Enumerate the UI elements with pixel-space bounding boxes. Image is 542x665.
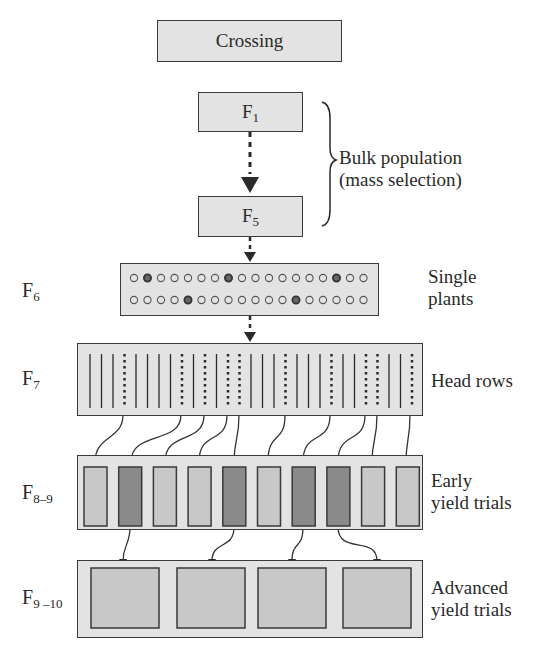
plant: [346, 274, 353, 281]
plant: [157, 296, 164, 303]
plant: [279, 296, 286, 303]
f1-to-f5-arrow: [241, 132, 259, 193]
early-yield-trials-label: Early yield trials: [431, 470, 512, 514]
selected-plant: [292, 296, 299, 303]
f6-generation-label: F6: [22, 279, 40, 305]
selected-plant: [144, 274, 151, 281]
early-trial-plot: [258, 467, 281, 526]
f5-to-f6-arrow: [244, 237, 256, 262]
early-trial-plot: [362, 467, 385, 526]
advanced-trial-plot: [343, 568, 411, 628]
selected-plant: [225, 274, 232, 281]
plant: [279, 274, 286, 281]
plant: [238, 296, 245, 303]
f9-10-generation-label: F9 –10: [22, 586, 62, 612]
f8-9-generation-label: F8–9: [22, 481, 53, 507]
early-trial-plot: [84, 467, 107, 526]
f1-label: F1: [199, 101, 302, 126]
f7-generation-label: F7: [22, 367, 40, 393]
early-trial-plots: [78, 456, 424, 531]
advanced-yield-trials-box: [77, 560, 423, 638]
bulk-population-label: Bulk population (mass selection): [339, 147, 462, 191]
advanced-trial-plot: [91, 568, 159, 628]
plant: [225, 296, 232, 303]
plant-circles: [121, 264, 380, 317]
plant: [319, 296, 326, 303]
early-trial-selection-arrows: [123, 527, 377, 561]
advanced-trial-plot: [258, 568, 326, 628]
selected-early-trial-plot: [292, 467, 315, 526]
bulk-brace: [322, 102, 336, 226]
selected-plant: [333, 274, 340, 281]
f5-box: F5: [198, 196, 303, 237]
plant: [252, 274, 259, 281]
advanced-yield-trials-label: Advanced yield trials: [431, 577, 512, 621]
selected-early-trial-plot: [119, 467, 142, 526]
early-trial-plot: [153, 467, 176, 526]
early-trial-plot: [396, 467, 419, 526]
single-plants-label: Single plants: [428, 266, 477, 310]
plant: [130, 274, 137, 281]
plant: [144, 296, 151, 303]
early-trial-plot: [188, 467, 211, 526]
selected-early-trial-plot: [223, 467, 246, 526]
crossing-box: Crossing: [157, 20, 342, 62]
plant: [198, 296, 205, 303]
plant: [198, 274, 205, 281]
early-yield-trials-box: [77, 455, 423, 530]
head-rows-box: [77, 343, 423, 416]
f6-to-f7-arrow: [244, 316, 256, 342]
plant: [238, 274, 245, 281]
advanced-trial-plot: [177, 568, 245, 628]
plant: [130, 296, 137, 303]
head-rows-label: Head rows: [431, 370, 513, 392]
single-plants-box: [120, 263, 379, 316]
selected-plant: [184, 296, 191, 303]
plant: [306, 274, 313, 281]
plant: [360, 296, 367, 303]
plant: [211, 274, 218, 281]
advanced-trial-plots: [78, 561, 424, 639]
plant: [184, 274, 191, 281]
plant: [346, 296, 353, 303]
plant: [292, 274, 299, 281]
plant: [211, 296, 218, 303]
plant: [265, 296, 272, 303]
plant: [157, 274, 164, 281]
head-row-lines: [78, 344, 424, 417]
plant: [319, 274, 326, 281]
plant: [171, 296, 178, 303]
f5-label: F5: [199, 205, 302, 230]
plant: [265, 274, 272, 281]
plant: [171, 274, 178, 281]
selected-early-trial-plot: [327, 467, 350, 526]
plant: [333, 296, 340, 303]
f1-box: F1: [198, 92, 303, 132]
plant: [360, 274, 367, 281]
crossing-label: Crossing: [158, 30, 341, 52]
plant: [252, 296, 259, 303]
plant: [306, 296, 313, 303]
